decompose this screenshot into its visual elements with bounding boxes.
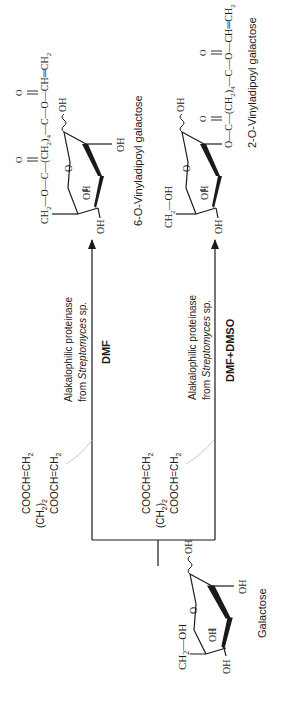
galactose-ring-oxygen: O — [188, 607, 199, 614]
enzyme-label-line1: Alakalophilic proteinase — [63, 296, 74, 402]
product-2-o-vinyladipoyl-galactose: CH2—OH OH OH OH O O—C—(CH2)4—C—O—CH═CH2 … — [163, 4, 258, 234]
branch-connector — [92, 240, 215, 566]
solvent-label: DMF — [100, 340, 112, 364]
anomeric-wavy-bond-icon — [180, 114, 184, 132]
enzyme-label-line2: from Streptomyces sp. — [77, 302, 88, 402]
ring-oxygen: O — [63, 165, 74, 172]
galactose-structure: CH2—OH O OH OH OH OH Galactose — [176, 540, 268, 674]
anomeric-wavy-bond-icon — [62, 114, 66, 132]
c4-oh: OH — [213, 220, 224, 234]
galactose-c4-oh: OH — [221, 660, 232, 674]
galactose-c2-oh: OH — [237, 580, 248, 594]
galactose-anomeric-oh: OH — [183, 540, 194, 554]
carbonyl-1-oxygen: O — [198, 115, 208, 122]
ring-oxygen: O — [181, 165, 192, 172]
ester-chain: O—C—(CH2)4—C—O—CH═CH2 — [223, 4, 237, 148]
solvent-label: DMF+DMSO — [224, 318, 236, 382]
reaction-1-conditions: Alakalophilic proteinase from Streptomyc… — [63, 296, 112, 402]
c4-oh: OH — [95, 220, 106, 234]
product-name-label: 6-O-Vinyladipoyl galactose — [132, 95, 144, 226]
galactose-name-label: Galactose — [256, 588, 268, 638]
c2-oh: OH — [115, 138, 126, 152]
galactose-ch2oh-label: CH2—OH — [176, 624, 191, 670]
c3-oh: OH — [199, 186, 210, 200]
carbonyl-1-oxygen: O — [14, 156, 24, 163]
product-name-label: 2-O-Vinyladipoyl galactose — [246, 17, 258, 148]
reaction-scheme: CH2—OH O OH OH OH OH Galactose COOCH=CH2… — [0, 0, 286, 714]
reaction-2-conditions: Alakalophilic proteinase from Streptomyc… — [187, 294, 236, 400]
reagent-line1: COOCH=CH2 — [141, 452, 154, 514]
c3-oh: OH — [81, 186, 92, 200]
reagent-line3: COOCH=CH2 — [169, 452, 182, 514]
ch2oh-label: CH2—OH — [163, 186, 177, 228]
reagent-upper: COOCH=CH2 (CH2)2 COOCH=CH2 — [21, 440, 92, 528]
enzyme-label-line2: from Streptomyces sp. — [201, 300, 212, 400]
anomeric-oh: OH — [57, 98, 68, 112]
enzyme-label-line1: Alakalophilic proteinase — [187, 294, 198, 400]
anomeric-wavy-bond-icon — [188, 556, 192, 574]
reagent-line2: (CH2)2 — [155, 499, 168, 528]
reagent-lower: COOCH=CH2 (CH2)2 COOCH=CH2 — [141, 440, 214, 528]
galactose-c3-oh: OH — [207, 628, 218, 642]
carbonyl-2-oxygen: O — [14, 89, 24, 96]
ester-chain: CH2—O—C—(CH2)4—C—O—CH═CH2 — [39, 52, 53, 224]
anomeric-oh: OH — [175, 98, 186, 112]
carbonyl-2-oxygen: O — [198, 49, 208, 56]
reagent-line2: (CH2)2 — [35, 499, 48, 528]
reagent-line3: COOCH=CH2 — [49, 452, 62, 514]
reagent-line1: COOCH=CH2 — [21, 452, 34, 514]
product-6-o-vinyladipoyl-galactose: OH OH OH OH O CH2—O—C—(CH2)4—C—O—CH═CH2 … — [14, 52, 144, 234]
